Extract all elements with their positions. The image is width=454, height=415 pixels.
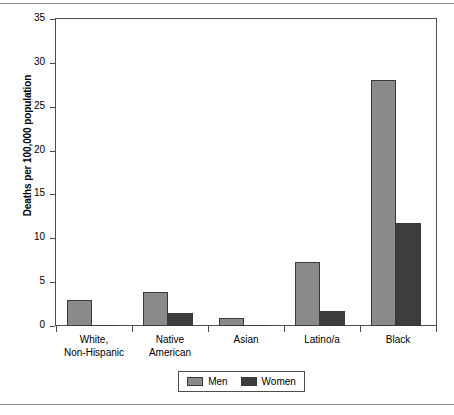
bar-women[interactable]	[244, 325, 269, 327]
x-axis-label: Black	[343, 334, 453, 347]
bar-group	[132, 19, 208, 326]
x-axis-label-line: Black	[343, 334, 453, 347]
chart-legend: Men Women	[178, 371, 305, 392]
x-axis-tick-mark	[56, 326, 57, 332]
y-axis-tick-label: 35	[34, 12, 45, 23]
y-axis-tick-mark	[50, 238, 55, 239]
y-axis-tick-label: 10	[34, 231, 45, 242]
legend-entry-men: Men	[187, 376, 227, 387]
x-axis-tick-mark	[360, 326, 361, 332]
legend-entry-women: Women	[241, 376, 296, 387]
y-axis-tick-label: 30	[34, 56, 45, 67]
legend-swatch-men	[187, 377, 203, 386]
bar-chart: Deaths per 100,000 population 0510152025…	[0, 0, 454, 415]
bar-men[interactable]	[143, 292, 168, 326]
bar-women[interactable]	[396, 223, 421, 326]
x-axis-tick-mark	[284, 326, 285, 332]
y-axis-tick-mark	[50, 151, 55, 152]
bar-men[interactable]	[295, 262, 320, 326]
y-axis-tick-label: 25	[34, 100, 45, 111]
bar-group	[208, 19, 284, 326]
y-axis-tick-mark	[50, 194, 55, 195]
bar-group	[56, 19, 132, 326]
bar-men[interactable]	[67, 300, 92, 326]
y-axis-tick-label: 15	[34, 187, 45, 198]
bar-men[interactable]	[219, 318, 244, 326]
y-axis-tick-mark	[50, 63, 55, 64]
y-axis-tick-mark	[50, 19, 55, 20]
bar-men[interactable]	[371, 80, 396, 326]
legend-label-men: Men	[208, 376, 227, 387]
bar-women[interactable]	[92, 325, 117, 327]
bar-group	[284, 19, 360, 326]
bar-women[interactable]	[320, 311, 345, 326]
plot-area	[56, 19, 436, 326]
x-axis-tick-mark	[436, 326, 437, 332]
y-axis-tick-mark	[50, 107, 55, 108]
bar-women[interactable]	[168, 313, 193, 326]
legend-label-women: Women	[262, 376, 296, 387]
y-axis-tick-label: 0	[39, 319, 45, 330]
x-axis-label-line: American	[115, 347, 225, 360]
bar-group	[360, 19, 436, 326]
y-axis-tick-mark	[50, 326, 55, 327]
y-axis-title: Deaths per 100,000 population	[22, 21, 33, 271]
y-axis-tick-label: 5	[39, 275, 45, 286]
y-axis-tick-mark	[50, 282, 55, 283]
x-axis-tick-mark	[132, 326, 133, 332]
legend-swatch-women	[241, 377, 257, 386]
y-axis-tick-label: 20	[34, 144, 45, 155]
x-axis-tick-mark	[208, 326, 209, 332]
